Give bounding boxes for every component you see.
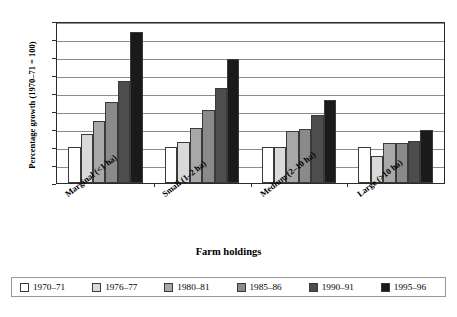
bar [202,110,214,183]
y-tick-mark [52,76,56,77]
legend-item[interactable]: 1980–81 [156,282,228,292]
legend-item[interactable]: 1976–77 [84,282,156,292]
y-tick-mark [52,94,56,95]
legend-swatch-icon [309,283,318,292]
y-tick-mark [52,40,56,41]
bar [105,102,117,183]
legend-item[interactable]: 1995–96 [373,282,445,292]
y-axis-title: Percentage growth (1970–71 = 100) [27,10,37,200]
bar [215,88,227,183]
legend-swatch-icon [164,283,173,292]
bar [358,147,370,183]
y-tick-mark [52,130,56,131]
legend: 1970–711976–771980–811985–861990–911995–… [11,277,446,297]
bar [227,59,239,183]
legend-label: 1990–91 [322,282,354,292]
x-axis-title: Farm holdings [0,246,457,257]
bar-chart: Percentage growth (1970–71 = 100) 050100… [0,0,457,317]
bar [408,141,420,183]
legend-item[interactable]: 1985–86 [229,282,301,292]
group-tick [347,183,348,187]
y-tick-mark [52,148,56,149]
bar [420,130,432,183]
bar [324,100,336,183]
y-tick-mark [52,166,56,167]
legend-swatch-icon [381,283,390,292]
legend-label: 1980–81 [177,282,209,292]
legend-label: 1995–96 [394,282,426,292]
legend-item[interactable]: 1970–71 [12,282,84,292]
bar [118,81,130,183]
bar [262,147,274,183]
legend-item[interactable]: 1990–91 [301,282,373,292]
bar [130,32,142,183]
y-tick-mark [52,184,56,185]
legend-label: 1970–71 [33,282,65,292]
group-tick [251,183,252,187]
y-tick-mark [52,112,56,113]
group-tick [154,183,155,187]
legend-swatch-icon [237,283,246,292]
legend-label: 1976–77 [105,282,137,292]
y-tick-mark [52,22,56,23]
legend-label: 1985–86 [250,282,282,292]
y-tick-mark [52,58,56,59]
legend-swatch-icon [20,283,29,292]
legend-swatch-icon [92,283,101,292]
bar [311,115,323,183]
